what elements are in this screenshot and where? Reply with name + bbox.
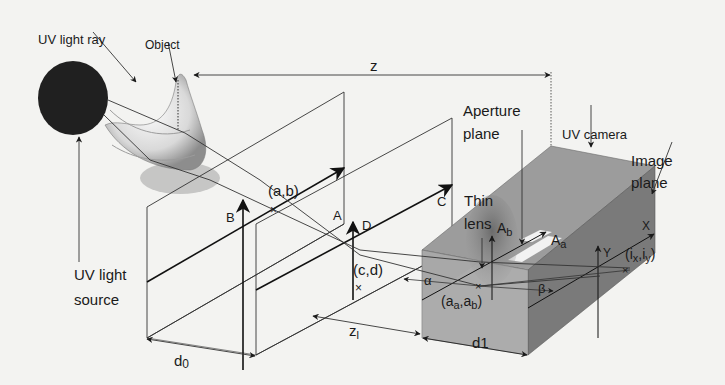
label-aperture-plane-1: Aperture bbox=[463, 102, 521, 119]
label-d0: d0 bbox=[174, 352, 189, 371]
label-image-plane-1: Image bbox=[631, 152, 673, 169]
point-cd-marker: × bbox=[355, 281, 362, 295]
label-zl: zl bbox=[349, 322, 359, 341]
label-axis-Aa-sub: a bbox=[560, 238, 567, 250]
label-uv-light-source-2: source bbox=[74, 291, 119, 308]
label-axis-Ab-sub: b bbox=[506, 226, 512, 238]
d0-dimension-line bbox=[147, 339, 255, 356]
label-axis-Y: Y bbox=[603, 246, 611, 260]
label-d1: d1 bbox=[472, 334, 489, 351]
label-aperture-plane-2: plane bbox=[463, 125, 500, 142]
label-alpha: α bbox=[424, 273, 432, 288]
label-uv-light-ray: UV light ray bbox=[38, 32, 106, 47]
label-uv-light-source-1: UV light bbox=[74, 266, 127, 283]
label-axis-C: C bbox=[437, 194, 446, 209]
label-object: Object bbox=[145, 38, 180, 52]
light-field-diagram: × × × × UV light ray Object UV light sou… bbox=[0, 0, 725, 385]
point-ixiy-marker: × bbox=[622, 264, 628, 276]
label-z: z bbox=[370, 57, 378, 74]
label-thin-lens-1: Thin bbox=[464, 192, 493, 209]
point-aaab-marker: × bbox=[475, 280, 481, 292]
diagram-canvas: × × × × UV light ray Object UV light sou… bbox=[0, 0, 725, 385]
plane-1-bottom bbox=[147, 224, 344, 338]
label-axis-B: B bbox=[226, 210, 235, 225]
label-axis-X: X bbox=[642, 219, 650, 233]
label-axis-D: D bbox=[362, 218, 371, 233]
label-uv-camera: UV camera bbox=[562, 127, 628, 142]
banana-object bbox=[105, 74, 220, 194]
label-point-ab: (a,b) bbox=[268, 182, 299, 199]
label-beta: β bbox=[538, 281, 545, 296]
label-point-ixiy: (ix,iy) bbox=[625, 246, 655, 264]
uv-camera-box bbox=[422, 146, 655, 355]
label-thin-lens-2: lens bbox=[464, 215, 492, 232]
point-ab-marker: × bbox=[270, 203, 277, 217]
label-axis-A: A bbox=[333, 208, 342, 223]
label-image-plane-2: plane bbox=[631, 174, 668, 191]
uv-light-source-ellipse bbox=[38, 61, 108, 135]
label-point-cd: (c,d) bbox=[353, 261, 383, 278]
zl-dimension-line bbox=[313, 316, 420, 334]
plane-connector bbox=[147, 338, 256, 355]
